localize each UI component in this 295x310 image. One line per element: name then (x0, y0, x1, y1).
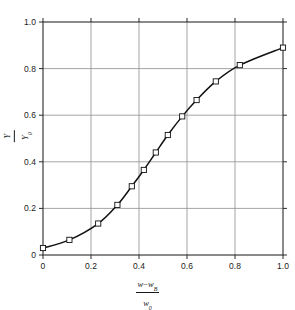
y-axis-numerator: Y (0, 130, 15, 142)
gridlines (43, 22, 283, 255)
x-axis-numerator: w−wB (136, 274, 160, 293)
tick-marks (39, 18, 287, 259)
x-tick-label: 0.8 (220, 261, 250, 271)
data-point-marker (40, 245, 45, 250)
x-den-sub-0: 0 (149, 306, 152, 310)
data-point-marker (280, 45, 285, 50)
x-tick-label: 1.0 (268, 261, 295, 271)
data-point-marker (153, 150, 158, 155)
x-tick-label: 0 (28, 261, 58, 271)
data-point-marker (67, 237, 72, 242)
y-axis-label: Y Y0 (0, 125, 33, 147)
chart-figure: 00.20.40.60.81.0 00.20.40.60.81.0 w−wB w… (0, 0, 295, 310)
data-point-marker (129, 184, 134, 189)
y-axis-denominator: Y0 (15, 130, 33, 142)
x-tick-label: 0.6 (172, 261, 202, 271)
data-point-marker (213, 79, 218, 84)
x-tick-label: 0.2 (76, 261, 106, 271)
y-den-sub-0: 0 (27, 132, 33, 135)
data-point-marker (141, 167, 146, 172)
y-tick-label: 0.8 (10, 64, 36, 74)
x-axis-label: w−wB w0 (0, 274, 295, 310)
plot-frame (43, 22, 283, 255)
x-num-sub-b: B (154, 286, 158, 292)
y-tick-label: 0.2 (10, 203, 36, 213)
data-point-marker (194, 97, 199, 102)
y-tick-label: 0.6 (10, 110, 36, 120)
data-point-marker (165, 132, 170, 137)
y-tick-label: 0 (10, 250, 36, 260)
data-point-marker (115, 202, 120, 207)
x-axis-fraction: w−wB w0 (136, 274, 160, 310)
y-tick-label: 1.0 (10, 17, 36, 27)
data-curve (43, 48, 283, 248)
data-point-marker (237, 63, 242, 68)
y-axis-fraction: Y Y0 (0, 130, 33, 142)
x-tick-label: 0.4 (124, 261, 154, 271)
y-tick-label: 0.4 (10, 157, 36, 167)
y-num-var-y: Y (2, 134, 12, 139)
data-point-marker (96, 221, 101, 226)
y-den-var-y: Y (20, 135, 30, 140)
data-point-marker (180, 114, 185, 119)
data-point-markers (40, 45, 285, 251)
x-axis-denominator: w0 (136, 293, 160, 310)
